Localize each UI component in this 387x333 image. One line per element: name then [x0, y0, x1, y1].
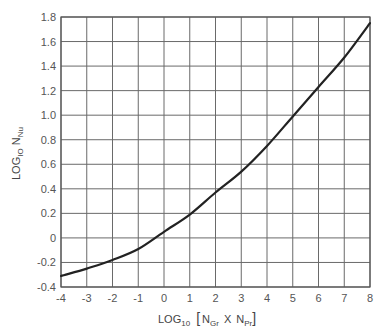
x-tick-label: -1	[133, 292, 143, 304]
x-tick-label: 7	[341, 292, 347, 304]
x-tick-label: 3	[238, 292, 244, 304]
y-tick-label: 1.8	[41, 11, 56, 23]
x-axis-ticks: -4-3-2-1012345678	[56, 292, 373, 304]
y-tick-label: 1.6	[41, 36, 56, 48]
x-tick-label: -3	[82, 292, 92, 304]
y-tick-label: 0.4	[41, 183, 56, 195]
x-tick-label: 0	[161, 292, 167, 304]
y-tick-label: -0.4	[37, 281, 56, 293]
x-axis-label: LOG10[NGrXNPr]	[158, 310, 256, 328]
y-tick-label: 1.4	[41, 60, 56, 72]
chart: 1.81.61.41.21.00.80.60.40.20-0.2-0.4 -4-…	[0, 0, 387, 333]
y-tick-label: -0.2	[37, 256, 56, 268]
x-tick-label: 2	[212, 292, 218, 304]
y-tick-label: 1.0	[41, 109, 56, 121]
y-tick-label: 0.2	[41, 207, 56, 219]
y-tick-label: 0.8	[41, 134, 56, 146]
x-tick-label: 5	[290, 292, 296, 304]
y-axis-label: LOGIONNu	[10, 127, 25, 180]
grid-lines	[61, 17, 370, 287]
x-tick-label: 4	[264, 292, 270, 304]
x-tick-label: 6	[315, 292, 321, 304]
y-tick-label: 0.6	[41, 158, 56, 170]
x-tick-label: -2	[108, 292, 118, 304]
y-tick-label: 1.2	[41, 85, 56, 97]
x-tick-label: -4	[56, 292, 66, 304]
x-tick-label: 8	[367, 292, 373, 304]
x-tick-label: 1	[187, 292, 193, 304]
y-tick-label: 0	[50, 232, 56, 244]
y-axis-ticks: 1.81.61.41.21.00.80.60.40.20-0.2-0.4	[37, 11, 56, 293]
